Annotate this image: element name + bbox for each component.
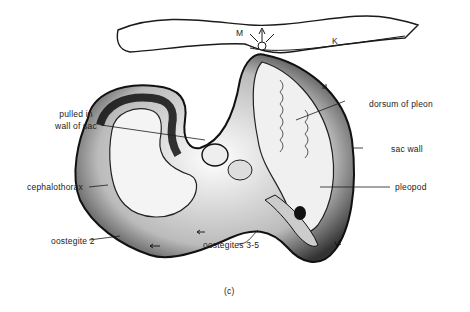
label-pleopod: pleopod bbox=[395, 182, 427, 192]
label-oostegite-2: oostegite 2 bbox=[51, 236, 95, 246]
label-cephalothorax: cephalothorax bbox=[27, 182, 83, 192]
label-sac-wall: sac wall bbox=[391, 144, 423, 154]
brood-sac bbox=[75, 54, 354, 262]
illustration bbox=[0, 0, 470, 312]
label-dorsum-of-pleon: dorsum of pleon bbox=[369, 99, 433, 109]
anatomical-figure: M K pulled in wall of sac cephalothorax … bbox=[0, 0, 470, 312]
label-muscle: M bbox=[236, 28, 243, 38]
label-oostegites-3-5: oostegites 3-5 bbox=[203, 240, 259, 250]
panel-label: (c) bbox=[224, 286, 235, 296]
label-kidney: K bbox=[332, 36, 338, 46]
label-pulled-in-line1: pulled in bbox=[48, 109, 104, 119]
label-pulled-in-line2: wall of sac bbox=[46, 121, 106, 131]
kidney-band bbox=[117, 16, 418, 53]
